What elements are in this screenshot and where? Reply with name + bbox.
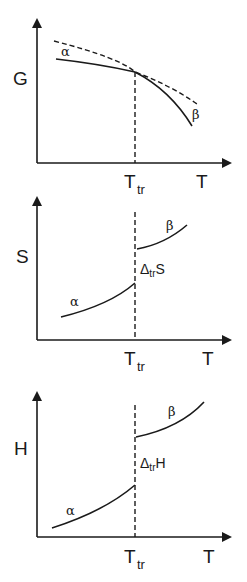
h-jump-label: ΔtrH (140, 455, 166, 473)
g-alpha-curve (56, 59, 135, 72)
h-alpha-label: α (66, 503, 75, 518)
s-transition-sub: tr (137, 359, 146, 374)
h-transition-sub: tr (137, 557, 146, 572)
g-beta-label: β (192, 107, 200, 122)
s-transition-label: T (124, 348, 136, 369)
phase-transition-diagram: G T T tr α β S T T tr α β ΔtrS H T T (0, 0, 247, 582)
s-x-label: T (202, 348, 214, 369)
h-transition-label: T (124, 546, 136, 567)
entropy-panel: S T T tr α β ΔtrS (16, 198, 230, 374)
h-y-label: H (14, 438, 28, 459)
g-alpha-label: α (61, 44, 70, 59)
g-transition-label: T (124, 171, 136, 192)
enthalpy-panel: H T T tr α β ΔtrH (14, 393, 230, 572)
h-alpha-curve (52, 485, 135, 528)
s-beta-curve (137, 225, 187, 249)
s-beta-label: β (166, 218, 174, 233)
g-beta-curve (135, 72, 192, 126)
s-jump-label: ΔtrS (140, 261, 165, 279)
h-x-label: T (203, 546, 215, 567)
g-x-label: T (196, 171, 208, 192)
s-alpha-label: α (70, 294, 79, 309)
h-beta-label: β (168, 404, 176, 419)
g-y-label: G (13, 68, 28, 89)
gibbs-panel: G T T tr α β (13, 20, 230, 197)
s-y-label: S (16, 246, 29, 267)
g-metastable-curve (54, 41, 197, 104)
g-transition-sub: tr (137, 182, 146, 197)
